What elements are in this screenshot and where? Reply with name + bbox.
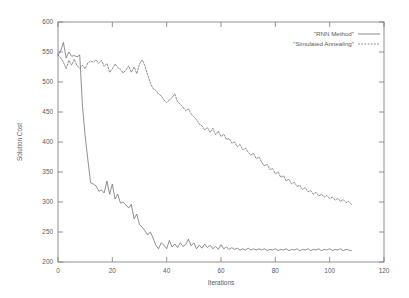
y-tick-label: 600 <box>42 18 53 25</box>
y-tick-label: 400 <box>42 138 53 145</box>
y-tick-label: 200 <box>42 258 53 265</box>
x-tick-label: 60 <box>217 267 225 274</box>
y-tick-label: 450 <box>42 108 53 115</box>
x-tick-label: 40 <box>163 267 171 274</box>
y-tick-label: 500 <box>42 78 53 85</box>
x-tick-label: 120 <box>379 267 390 274</box>
legend-label-rnn-method: "RNN Method" <box>314 30 354 37</box>
x-tick-label: 20 <box>109 267 117 274</box>
y-axis-title: Solution Cost <box>16 123 23 161</box>
y-tick-label: 550 <box>42 48 53 55</box>
y-tick-label: 350 <box>42 168 53 175</box>
legend-label-simulated-annealing: "Simulated Annealing" <box>293 40 354 47</box>
chart-figure: 200250300350400450500550600 020406080100… <box>0 0 409 298</box>
line-chart: 200250300350400450500550600 020406080100… <box>0 0 409 298</box>
x-tick-label: 80 <box>272 267 280 274</box>
x-axis-title: Iterations <box>208 279 234 286</box>
x-tick-label: 0 <box>56 267 60 274</box>
y-tick-label: 250 <box>42 228 53 235</box>
y-tick-label: 300 <box>42 198 53 205</box>
x-tick-label: 100 <box>324 267 335 274</box>
